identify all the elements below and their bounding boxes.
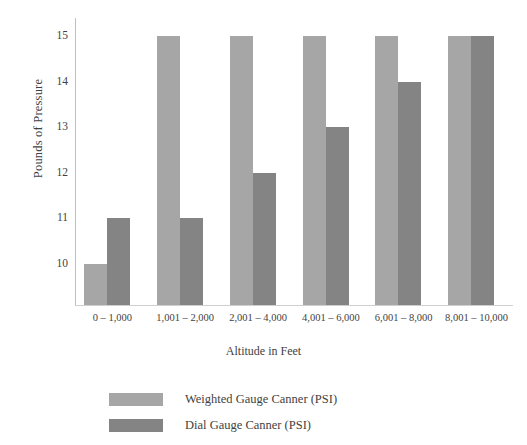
bar-dial-gauge: [107, 218, 130, 305]
bar-group: [222, 18, 295, 305]
bar-weighted-gauge: [84, 264, 107, 305]
legend-item: Weighted Gauge Canner (PSI): [109, 386, 429, 412]
legend-label: Weighted Gauge Canner (PSI): [185, 392, 337, 407]
bar-group: [440, 18, 513, 305]
bar-dial-gauge: [180, 218, 203, 305]
bar-dial-gauge: [398, 82, 421, 305]
y-axis-tick-label: 14: [38, 76, 68, 88]
bar-dial-gauge: [253, 173, 276, 305]
y-axis-tick-label: 13: [38, 121, 68, 133]
legend-item: Dial Gauge Canner (PSI): [109, 412, 429, 438]
bar-weighted-gauge: [375, 36, 398, 305]
x-axis-tick-labels: 0 – 1,0001,001 – 2,0002,001 – 4,0004,001…: [76, 312, 513, 332]
legend-swatch-icon: [109, 393, 163, 406]
x-axis-tick-label: 8,001 – 10,000: [440, 312, 513, 323]
bar-weighted-gauge: [230, 36, 253, 305]
bar-weighted-gauge: [448, 36, 471, 305]
x-axis-tick-label: 2,001 – 4,000: [222, 312, 295, 323]
x-axis-tick-label: 4,001 – 6,000: [295, 312, 368, 323]
bar-group: [76, 18, 149, 305]
legend-label: Dial Gauge Canner (PSI): [185, 418, 311, 433]
bar-group: [367, 18, 440, 305]
bar-chart: Pounds of Pressure 101112131415 0 – 1,00…: [0, 0, 527, 445]
bar-group: [295, 18, 368, 305]
bar-dial-gauge: [326, 127, 349, 305]
legend-swatch-icon: [109, 419, 163, 432]
y-axis-tick-labels: 101112131415: [34, 0, 68, 445]
x-axis-line: [75, 305, 513, 306]
x-axis-title: Altitude in Feet: [0, 344, 527, 359]
x-axis-tick-label: 0 – 1,000: [76, 312, 149, 323]
x-axis-tick-label: 1,001 – 2,000: [149, 312, 222, 323]
y-axis-tick-label: 10: [38, 258, 68, 270]
plot-area: [76, 18, 513, 305]
bar-dial-gauge: [471, 36, 494, 305]
bar-weighted-gauge: [157, 36, 180, 305]
bar-group: [149, 18, 222, 305]
x-axis-tick-label: 6,001 – 8,000: [367, 312, 440, 323]
y-axis-tick-label: 12: [38, 167, 68, 179]
bar-weighted-gauge: [303, 36, 326, 305]
chart-legend: Weighted Gauge Canner (PSI)Dial Gauge Ca…: [109, 386, 429, 438]
y-axis-tick-label: 15: [38, 30, 68, 42]
y-axis-tick-label: 11: [38, 212, 68, 224]
